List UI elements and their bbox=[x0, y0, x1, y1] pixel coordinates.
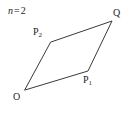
parameter-label: n=2 bbox=[8, 6, 26, 16]
vertex-label-p1-subscript: 1 bbox=[89, 79, 93, 87]
vertex-label-q-text: Q bbox=[113, 7, 120, 18]
vertex-label-q: Q bbox=[113, 8, 120, 18]
parameter-equals: = bbox=[13, 5, 21, 16]
parallelogram-figure: n=2 Q P2 O P1 bbox=[0, 0, 132, 118]
parameter-value: 2 bbox=[21, 5, 26, 16]
vertex-label-p1: P1 bbox=[83, 75, 92, 87]
vertex-label-o-text: O bbox=[13, 91, 20, 102]
vertex-label-o: O bbox=[13, 92, 20, 102]
vertex-label-p2-subscript: 2 bbox=[39, 31, 43, 39]
vertex-label-p2: P2 bbox=[33, 27, 42, 39]
